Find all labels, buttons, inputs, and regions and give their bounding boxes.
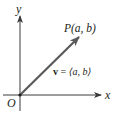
vector-components: ⟨a, b⟩	[69, 66, 92, 77]
vector-equals: =	[58, 66, 69, 77]
y-axis-label: y	[15, 2, 22, 16]
vector-diagram: y x O P(a, b) v = ⟨a, b⟩	[0, 0, 121, 118]
x-axis-label: x	[104, 88, 111, 102]
vector-v-label: v = ⟨a, b⟩	[53, 66, 92, 77]
origin-label: O	[7, 96, 16, 110]
point-p-label: P(a, b)	[63, 22, 96, 35]
origin-point	[18, 93, 21, 96]
